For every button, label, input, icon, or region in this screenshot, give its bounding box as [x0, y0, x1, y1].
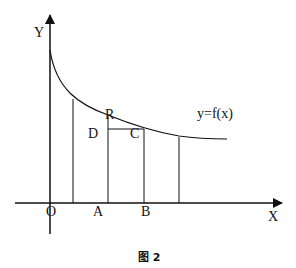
point-c-label: C: [130, 126, 139, 141]
y-axis-label: Y: [34, 25, 44, 40]
point-d-label: D: [88, 126, 98, 141]
point-b-label: B: [141, 204, 150, 219]
point-r-label: R: [105, 107, 115, 122]
curve-label: y=f(x): [197, 106, 233, 122]
origin-label: O: [46, 204, 56, 219]
figure-caption: 图 2: [138, 251, 160, 264]
x-axis-label: X: [268, 209, 278, 224]
function-graph-figure: Y X O A B R D C y=f(x) 图 2: [0, 0, 296, 268]
point-a-label: A: [93, 204, 104, 219]
